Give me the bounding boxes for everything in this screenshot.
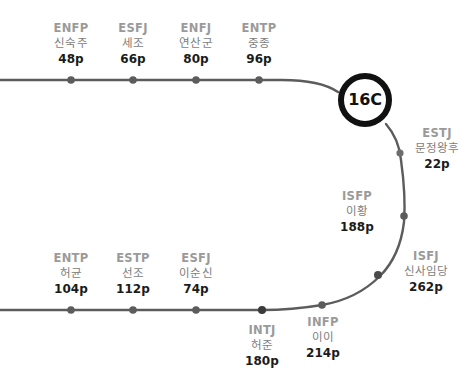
node-points: 48p — [41, 52, 101, 66]
node-person: 중종 — [229, 37, 289, 51]
node-label-yi-hwang[interactable]: ISFP 이황 188p — [328, 190, 386, 234]
node-mbti: INFP — [294, 316, 352, 330]
node-mbti: ENFJ — [166, 22, 226, 36]
node-label-jungjong[interactable]: ENTP 중종 96p — [229, 22, 289, 66]
node-mbti: ISFP — [328, 190, 386, 204]
timeline-dot-shin-saimdang[interactable] — [374, 271, 382, 279]
node-label-sin-suk-ju[interactable]: ENFP 신숙주 48p — [41, 22, 101, 66]
node-person: 허균 — [41, 267, 101, 281]
node-points: 22p — [404, 157, 470, 171]
timeline-segment-top — [0, 80, 338, 92]
node-mbti: ISFJ — [392, 250, 460, 264]
node-label-yi-sun-sin[interactable]: ESFJ 이순신 74p — [166, 252, 226, 296]
node-label-sejo[interactable]: ESFJ 세조 66p — [103, 22, 163, 66]
timeline-dot-heo-gyun[interactable] — [67, 306, 75, 314]
timeline-dot-yi-sun-sin[interactable] — [192, 306, 200, 314]
node-label-heo-gyun[interactable]: ENTP 허균 104p — [41, 252, 101, 296]
node-person: 신숙주 — [41, 37, 101, 51]
node-mbti: ESFJ — [103, 22, 163, 36]
timeline-dot-yi-hwang[interactable] — [400, 212, 408, 220]
node-label-munjeong-wanghu[interactable]: ESTJ 문정왕후 22p — [404, 127, 470, 171]
node-label-yeonsangun[interactable]: ENFJ 연산군 80p — [166, 22, 226, 66]
node-person: 신사임당 — [392, 265, 460, 279]
node-points: 80p — [166, 52, 226, 66]
node-person: 연산군 — [166, 37, 226, 51]
node-points: 66p — [103, 52, 163, 66]
timeline-dot-seonjo[interactable] — [129, 306, 137, 314]
node-person: 이황 — [328, 205, 386, 219]
node-person: 문정왕후 — [404, 142, 470, 156]
node-mbti: ESTJ — [404, 127, 470, 141]
node-points: 112p — [103, 282, 163, 296]
node-points: 96p — [229, 52, 289, 66]
node-points: 74p — [166, 282, 226, 296]
node-points: 214p — [294, 346, 352, 360]
timeline-dot-sejo[interactable] — [129, 76, 137, 84]
node-mbti: INTJ — [233, 324, 291, 338]
node-mbti: ESTP — [103, 252, 163, 266]
node-points: 188p — [328, 220, 386, 234]
node-person: 세조 — [103, 37, 163, 51]
timeline-canvas: 16C ENFP 신숙주 48p ESFJ 세조 66p ENFJ 연산군 80… — [0, 0, 473, 390]
node-person: 허준 — [233, 339, 291, 353]
node-points: 104p — [41, 282, 101, 296]
century-badge-label: 16C — [348, 92, 381, 108]
node-mbti: ESFJ — [166, 252, 226, 266]
node-person: 이이 — [294, 331, 352, 345]
node-mbti: ENTP — [41, 252, 101, 266]
node-mbti: ENFP — [41, 22, 101, 36]
node-label-shin-saimdang[interactable]: ISFJ 신사임당 262p — [392, 250, 460, 294]
timeline-dot-yeonsangun[interactable] — [192, 76, 200, 84]
node-person: 선조 — [103, 267, 163, 281]
node-person: 이순신 — [166, 267, 226, 281]
century-badge-16c[interactable]: 16C — [338, 73, 392, 127]
node-label-heo-jun[interactable]: INTJ 허준 180p — [233, 324, 291, 368]
node-label-seonjo[interactable]: ESTP 선조 112p — [103, 252, 163, 296]
node-label-yi-i[interactable]: INFP 이이 214p — [294, 316, 352, 360]
timeline-dot-yi-i[interactable] — [318, 301, 326, 309]
timeline-dot-sin-suk-ju[interactable] — [67, 76, 75, 84]
timeline-dot-jungjong[interactable] — [255, 76, 263, 84]
timeline-dot-heo-jun[interactable] — [258, 306, 266, 314]
node-points: 262p — [392, 280, 460, 294]
timeline-dot-munjeong-wanghu[interactable] — [396, 149, 403, 156]
node-mbti: ENTP — [229, 22, 289, 36]
node-points: 180p — [233, 354, 291, 368]
